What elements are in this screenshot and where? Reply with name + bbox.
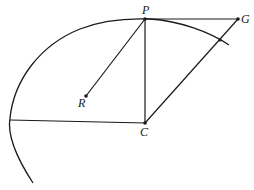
label-r: R bbox=[78, 97, 85, 109]
label-g: G bbox=[241, 13, 250, 25]
point-p bbox=[143, 17, 147, 21]
label-p: P bbox=[142, 4, 149, 16]
label-c: C bbox=[140, 126, 148, 138]
point-intersection bbox=[218, 38, 221, 41]
arc-curve bbox=[10, 19, 229, 183]
segment-cg bbox=[145, 19, 238, 123]
segment-arc-c bbox=[10, 120, 145, 123]
segment-pr bbox=[86, 19, 145, 96]
diagram-svg bbox=[0, 0, 254, 190]
point-g bbox=[236, 17, 240, 21]
diagram-canvas: P G R C bbox=[0, 0, 254, 190]
